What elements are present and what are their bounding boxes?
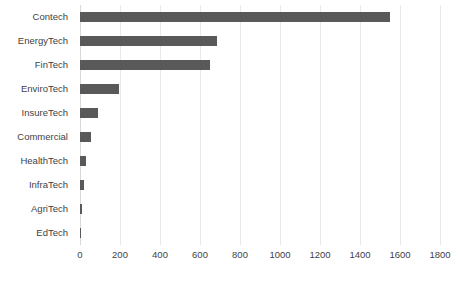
y-axis-label-energytech: EnergyTech	[0, 29, 74, 53]
bar-chart: ContechEnergyTechFinTechEnviroTechInsure…	[0, 0, 459, 287]
y-axis-label-envirotech: EnviroTech	[0, 77, 74, 101]
gridline	[440, 5, 441, 245]
bar-infratech[interactable]	[80, 180, 84, 190]
y-axis-label-contech: Contech	[0, 5, 74, 29]
bar-energytech[interactable]	[80, 36, 217, 46]
plot-area	[80, 5, 440, 245]
bar-agritech[interactable]	[80, 204, 82, 214]
x-axis-labels: 020040060080010001200140016001800	[0, 248, 459, 268]
bar-commercial[interactable]	[80, 132, 91, 142]
bar-fintech[interactable]	[80, 60, 210, 70]
bar-insuretech[interactable]	[80, 108, 98, 118]
bar-row	[80, 173, 440, 197]
y-axis-label-edtech: EdTech	[0, 221, 74, 245]
bar-row	[80, 149, 440, 173]
bar-row	[80, 5, 440, 29]
y-axis-labels: ContechEnergyTechFinTechEnviroTechInsure…	[0, 5, 74, 245]
bar-row	[80, 125, 440, 149]
bar-contech[interactable]	[80, 12, 390, 22]
y-axis-label-healthtech: HealthTech	[0, 149, 74, 173]
bar-row	[80, 221, 440, 245]
y-axis-label-fintech: FinTech	[0, 53, 74, 77]
bar-row	[80, 53, 440, 77]
bar-envirotech[interactable]	[80, 84, 119, 94]
x-axis-tick-1800: 1800	[415, 248, 459, 262]
y-axis-label-infratech: InfraTech	[0, 173, 74, 197]
bar-row	[80, 77, 440, 101]
bar-row	[80, 197, 440, 221]
bar-row	[80, 29, 440, 53]
bar-edtech[interactable]	[80, 228, 81, 238]
y-axis-label-agritech: AgriTech	[0, 197, 74, 221]
bar-row	[80, 101, 440, 125]
y-axis-label-commercial: Commercial	[0, 125, 74, 149]
bar-healthtech[interactable]	[80, 156, 86, 166]
y-axis-label-insuretech: InsureTech	[0, 101, 74, 125]
